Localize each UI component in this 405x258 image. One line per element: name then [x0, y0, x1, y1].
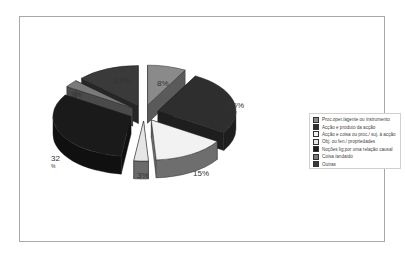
- slice-top-face: [134, 121, 149, 161]
- data-label: 32%: [51, 154, 60, 169]
- legend-swatch: [313, 154, 319, 160]
- legend-label: Proc.oper./agente ou instrumento: [322, 116, 390, 123]
- data-label: 13%: [114, 76, 130, 85]
- legend-swatch: [313, 117, 319, 123]
- legend-swatch: [313, 131, 319, 137]
- data-label: 8%: [157, 79, 169, 88]
- legend-label: Acção e coisa ou proc./ suj. à acção: [322, 131, 396, 138]
- legend-label: Noções lig.por uma relação causal: [322, 146, 392, 153]
- legend-item: Acção e coisa ou proc./ suj. à acção: [313, 131, 397, 138]
- data-label: 15%: [193, 169, 209, 178]
- legend-item: Acção e produto da acção: [313, 123, 397, 130]
- legend-label: Coisa /andaído: [322, 153, 353, 160]
- legend-item: Noções lig.por uma relação causal: [313, 146, 397, 153]
- data-label: 3%: [70, 90, 82, 99]
- legend-swatch: [313, 161, 319, 167]
- data-label-line: %: [51, 163, 56, 169]
- legend: Proc.oper./agente ou instrumento Acção e…: [309, 113, 401, 169]
- data-label: 3%: [137, 171, 149, 180]
- data-label: 26%: [228, 101, 244, 110]
- legend-swatch: [313, 139, 319, 145]
- chart-frame: 8%26%15%3%32%3%13% Proc.oper./agente ou …: [19, 16, 385, 242]
- legend-swatch: [313, 124, 319, 130]
- legend-item: Coisa /andaído: [313, 153, 397, 160]
- legend-item: Proc.oper./agente ou instrumento: [313, 116, 397, 123]
- legend-item: Outras: [313, 160, 397, 167]
- data-label-line: 32: [51, 154, 60, 163]
- legend-swatch: [313, 146, 319, 152]
- legend-label: Acção e produto da acção: [322, 124, 375, 131]
- legend-item: Obj. ou fen./ propriedades: [313, 138, 397, 145]
- legend-label: Outras: [322, 161, 336, 168]
- legend-label: Obj. ou fen./ propriedades: [322, 138, 375, 145]
